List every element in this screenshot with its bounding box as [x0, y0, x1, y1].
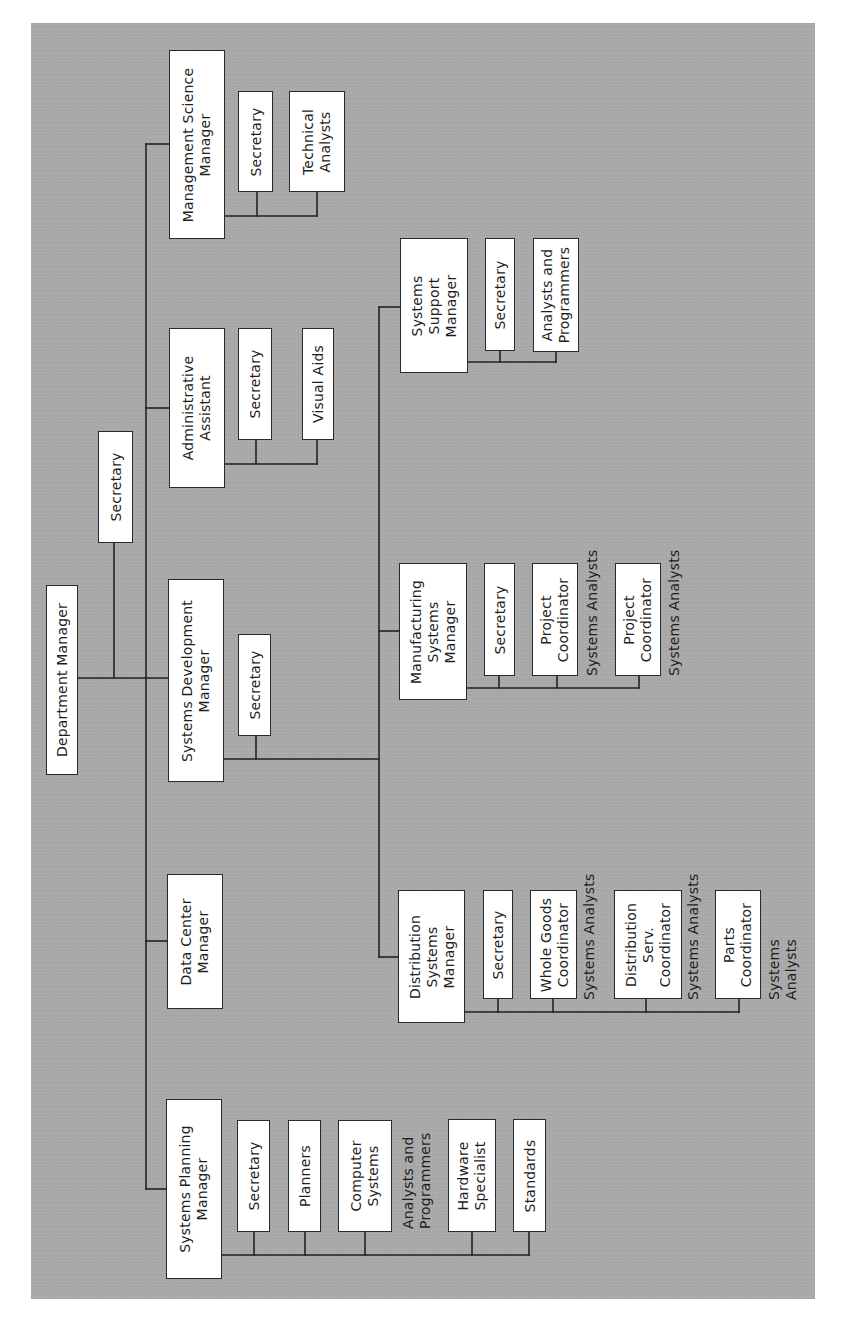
box-distribution-systems-manager: Distribution Systems Manager: [398, 890, 465, 1023]
annotation-dist-systems-analysts-2: Systems Analysts: [685, 874, 702, 1000]
annotation-mfg-systems-analysts-1: Systems Analysts: [584, 550, 601, 676]
box-label: Systems Development Manager: [168, 579, 224, 782]
box-admin-secretary: Secretary: [238, 328, 272, 440]
box-label: Hardware Specialist: [448, 1119, 496, 1232]
box-label: Data Center Manager: [167, 874, 223, 1009]
box-label: Computer Systems: [338, 1120, 392, 1232]
box-manufacturing-systems-manager: Manufacturing Systems Manager: [399, 563, 467, 700]
box-label: Project Coordinator: [532, 563, 578, 676]
box-mfg-project-coordinator-2: Project Coordinator: [615, 563, 661, 676]
annotation-spm-analysts-programmers: Analysts and Programmers: [400, 1132, 434, 1229]
annotation-dist-systems-analysts-1: Systems Analysts: [581, 874, 598, 1000]
box-label: Department Manager: [46, 585, 78, 775]
box-systems-development-manager: Systems Development Manager: [168, 579, 224, 782]
box-label: Administrative Assistant: [169, 328, 225, 488]
box-systems-support-manager: Systems Support Manager: [400, 238, 468, 373]
box-data-center-manager: Data Center Manager: [167, 874, 223, 1009]
box-sdm-secretary: Secretary: [238, 634, 271, 736]
box-msm-secretary: Secretary: [238, 91, 273, 192]
box-label: Secretary: [237, 1120, 270, 1232]
box-label: Secretary: [483, 890, 513, 999]
box-label: Secretary: [98, 431, 133, 543]
box-standards: Standards: [513, 1119, 546, 1232]
box-ssm-analysts-programmers: Analysts and Programmers: [533, 238, 579, 352]
box-label: Manufacturing Systems Manager: [399, 563, 467, 700]
box-computer-systems: Computer Systems: [338, 1120, 392, 1232]
box-mfg-project-coordinator-1: Project Coordinator: [532, 563, 578, 676]
box-management-science-manager: Management Science Manager: [169, 50, 225, 239]
box-distribution-serv-coordinator: Distribution Serv. Coordinator: [614, 890, 682, 999]
box-ssm-secretary: Secretary: [485, 238, 515, 351]
box-dist-secretary: Secretary: [483, 890, 513, 999]
box-administrative-assistant: Administrative Assistant: [169, 328, 225, 488]
box-label: Management Science Manager: [169, 50, 225, 239]
box-label: Parts Coordinator: [715, 890, 761, 999]
box-label: Analysts and Programmers: [533, 238, 579, 352]
box-label: Project Coordinator: [615, 563, 661, 676]
box-label: Secretary: [238, 91, 273, 192]
box-visual-aids: Visual Aids: [302, 328, 334, 440]
box-hardware-specialist: Hardware Specialist: [448, 1119, 496, 1232]
box-label: Systems Planning Manager: [166, 1099, 222, 1279]
box-parts-coordinator: Parts Coordinator: [715, 890, 761, 999]
box-planners: Planners: [288, 1120, 321, 1232]
box-label: Distribution Serv. Coordinator: [614, 890, 682, 999]
box-systems-planning-manager: Systems Planning Manager: [166, 1099, 222, 1279]
box-label: Systems Support Manager: [400, 238, 468, 373]
annotation-mfg-systems-analysts-2: Systems Analysts: [666, 550, 683, 676]
box-label: Secretary: [238, 328, 272, 440]
box-whole-goods-coordinator: Whole Goods Coordinator: [530, 890, 577, 999]
box-label: Secretary: [238, 634, 271, 736]
box-label: Visual Aids: [302, 328, 334, 440]
box-label: Secretary: [484, 563, 515, 676]
annotation-dist-systems-analysts-3: Systems Analysts: [766, 925, 800, 1000]
box-label: Planners: [288, 1120, 321, 1232]
box-label: Standards: [513, 1119, 546, 1232]
box-label: Distribution Systems Manager: [398, 890, 465, 1023]
box-mfg-secretary: Secretary: [484, 563, 515, 676]
box-label: Technical Analysts: [289, 91, 345, 192]
box-department-secretary: Secretary: [98, 431, 133, 543]
box-department-manager: Department Manager: [46, 585, 78, 775]
box-technical-analysts: Technical Analysts: [289, 91, 345, 192]
box-spm-secretary: Secretary: [237, 1120, 270, 1232]
box-label: Whole Goods Coordinator: [530, 890, 577, 999]
box-label: Secretary: [485, 238, 515, 351]
